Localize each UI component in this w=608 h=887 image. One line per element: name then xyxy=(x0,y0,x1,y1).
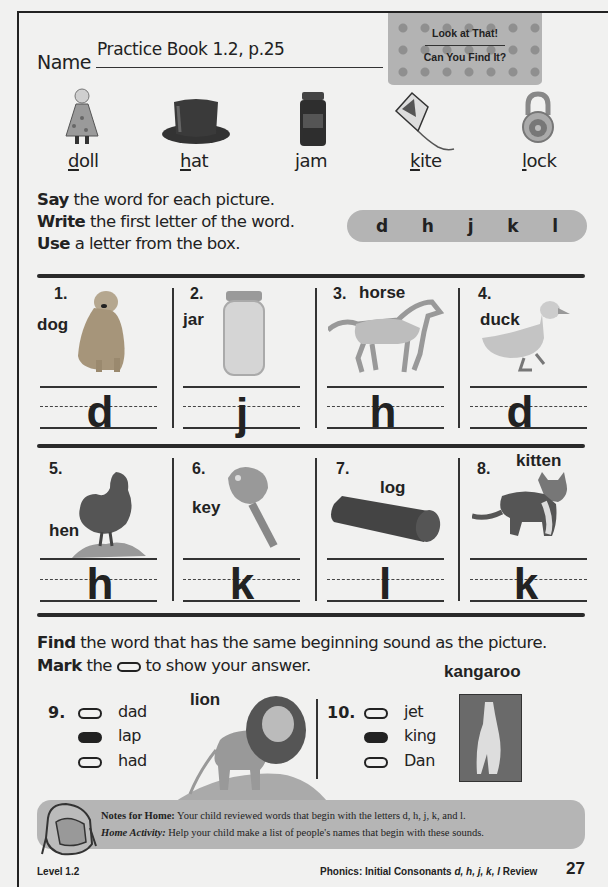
exercise-word: kitten xyxy=(516,451,561,471)
log-icon xyxy=(328,492,444,544)
page-border-left xyxy=(17,11,19,887)
section-rule-middle xyxy=(37,444,585,448)
hen-icon xyxy=(66,468,150,560)
backpack-icon xyxy=(40,798,98,858)
option-label: jet xyxy=(404,702,423,721)
name-label: Name xyxy=(37,51,91,73)
answer-letter[interactable]: h xyxy=(80,562,120,606)
exercise-number: 5. xyxy=(49,460,62,478)
instruction-write: Write the first letter of the word. xyxy=(37,212,294,231)
letter-j: j xyxy=(468,216,474,236)
exercise-word: jar xyxy=(183,310,204,330)
cell-divider xyxy=(458,288,460,428)
answer-bubble-had[interactable] xyxy=(78,757,102,768)
answer-bubble-dan[interactable] xyxy=(364,757,388,768)
option-label: Dan xyxy=(404,751,435,770)
picture-word-doll: doll xyxy=(68,150,98,171)
cell-divider xyxy=(458,458,460,601)
notes-line-2: Home Activity: Help your child make a li… xyxy=(101,827,484,838)
dog-icon xyxy=(70,288,134,378)
jam-jar-icon xyxy=(298,92,328,148)
picture-word-jam: jam xyxy=(295,150,327,171)
answer-letter[interactable]: d xyxy=(500,390,540,434)
letter-d: d xyxy=(376,216,388,236)
exercise-number: 1. xyxy=(54,285,67,303)
instruction-mark: Mark the to show your answer. xyxy=(37,656,311,675)
exercise-number: 2. xyxy=(190,285,203,303)
page-number: 27 xyxy=(566,859,585,879)
key-icon xyxy=(222,464,282,550)
banner-wavy-edge xyxy=(388,80,542,88)
answer-letter[interactable]: j xyxy=(222,392,262,436)
writing-line-top xyxy=(183,386,300,388)
notes-line-1: Notes for Home: Your child reviewed word… xyxy=(101,810,466,821)
answer-letter[interactable]: h xyxy=(363,390,403,434)
picture-word-lock: lock xyxy=(522,150,556,171)
instruction-find: Find the word that has the same beginnin… xyxy=(37,633,547,652)
answer-bubble-lap[interactable] xyxy=(78,732,102,743)
banner-divider xyxy=(425,45,505,46)
option-label: had xyxy=(118,751,147,770)
duck-icon xyxy=(480,298,572,374)
exercise-word: key xyxy=(192,498,220,518)
jar-icon xyxy=(222,291,266,377)
letter-k: k xyxy=(507,216,518,236)
bubble-icon xyxy=(117,662,141,672)
answer-letter[interactable]: d xyxy=(80,390,120,434)
notes-for-home-box xyxy=(37,800,585,849)
picture-word-kite: kite xyxy=(410,150,442,171)
hat-icon xyxy=(160,96,232,146)
doll-icon xyxy=(62,86,102,148)
answer-bubble-jet[interactable] xyxy=(364,708,388,719)
letter-box: d h j k l xyxy=(347,210,587,242)
cell-divider xyxy=(315,288,317,428)
exercise-word: dog xyxy=(37,315,68,335)
cell-divider xyxy=(315,458,317,601)
picture-word-kangaroo: kangaroo xyxy=(444,662,521,682)
title-banner xyxy=(388,13,542,85)
horse-icon xyxy=(328,298,448,374)
cell-divider xyxy=(172,458,174,601)
option-label: king xyxy=(404,726,436,745)
picture-word-hat: hat xyxy=(180,150,208,171)
answer-letter[interactable]: l xyxy=(365,562,405,606)
instruction-say: Say the word for each picture. xyxy=(37,190,275,209)
kitten-icon xyxy=(472,472,572,544)
banner-subtitle: Can You Find It? xyxy=(388,51,542,63)
name-underline xyxy=(96,67,383,68)
question-number: 9. xyxy=(48,703,65,722)
name-field[interactable]: Practice Book 1.2, p.25 xyxy=(97,39,285,59)
option-label: dad xyxy=(118,702,147,721)
lock-icon xyxy=(520,91,556,145)
answer-bubble-king[interactable] xyxy=(364,732,388,743)
exercise-number: 6. xyxy=(192,460,205,478)
kangaroo-icon xyxy=(459,694,522,782)
answer-bubble-dad[interactable] xyxy=(78,708,102,719)
footer-topic: Phonics: Initial Consonants d, h, j, k, … xyxy=(320,866,537,877)
exercise-number: 7. xyxy=(336,460,349,478)
cell-divider xyxy=(172,288,174,428)
footer-level: Level 1.2 xyxy=(37,866,79,877)
section-rule-bottom xyxy=(37,613,585,617)
banner-title: Look at That! xyxy=(388,27,542,39)
letter-h: h xyxy=(422,216,434,236)
kite-icon xyxy=(394,91,458,155)
section-rule-top xyxy=(37,274,585,278)
question-divider xyxy=(316,699,318,779)
letter-l: l xyxy=(552,216,558,236)
lion-icon xyxy=(160,690,330,805)
answer-letter[interactable]: k xyxy=(506,562,546,606)
option-label: lap xyxy=(118,726,141,745)
answer-letter[interactable]: k xyxy=(222,562,262,606)
instruction-use: Use a letter from the box. xyxy=(37,234,240,253)
question-number: 10. xyxy=(327,703,355,722)
